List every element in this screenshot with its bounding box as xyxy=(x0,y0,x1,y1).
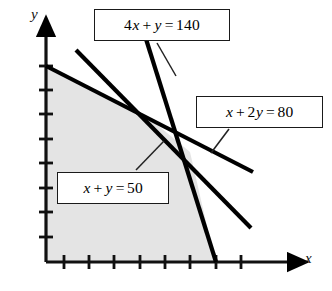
callout-x-y-50-eq: = xyxy=(113,179,127,197)
callout-x-2y-80-coef2: 2 xyxy=(248,103,256,121)
callout-x-y-50: x+y=50 xyxy=(57,172,169,204)
callout-4x-y-140-rhs: 140 xyxy=(176,16,200,34)
callout-4x-y-140-var2: y xyxy=(154,16,162,34)
callout-x-y-50-op1: + xyxy=(91,179,105,197)
callout-x-y-50-var2: y xyxy=(105,179,113,197)
leader-line-4x-y-140 xyxy=(157,43,176,76)
callout-4x-y-140-coef: 4 xyxy=(124,16,132,34)
callout-4x-y-140: 4x+y=140 xyxy=(94,9,230,41)
leader-line-x-2y-80 xyxy=(211,129,229,153)
callout-x-2y-80-eq: = xyxy=(264,103,278,121)
plot-canvas xyxy=(0,0,332,291)
linear-programming-figure: 4x+y=140 x+2y=80 x+y=50 y x xyxy=(0,0,332,291)
callout-4x-y-140-eq: = xyxy=(162,16,176,34)
x-axis-label: x xyxy=(305,250,312,267)
callout-4x-y-140-var1: x xyxy=(132,16,140,34)
callout-4x-y-140-op1: + xyxy=(140,16,154,34)
callout-x-y-50-var1: x xyxy=(83,179,91,197)
callout-x-y-50-rhs: 50 xyxy=(127,179,143,197)
y-axis-label: y xyxy=(31,6,38,23)
callout-x-2y-80-op1: + xyxy=(234,103,248,121)
callout-x-2y-80: x+2y=80 xyxy=(196,96,323,128)
callout-x-2y-80-var2: y xyxy=(256,103,264,121)
callout-x-2y-80-var1: x xyxy=(226,103,234,121)
callout-x-2y-80-rhs: 80 xyxy=(278,103,294,121)
